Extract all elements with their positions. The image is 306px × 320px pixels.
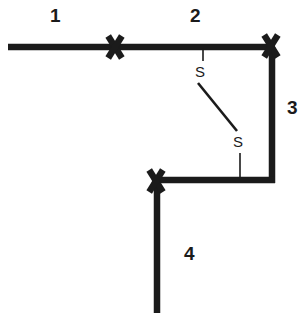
diagram-canvas: 1 2 3 4 S S xyxy=(0,0,306,320)
segment-label-4: 4 xyxy=(184,244,195,263)
switch-label-lower-s: S xyxy=(233,134,243,149)
segment-label-3: 3 xyxy=(287,98,298,117)
switch-label-upper-s: S xyxy=(195,64,205,79)
cross-marks-group xyxy=(108,35,278,192)
thick-lines-group xyxy=(8,47,275,313)
switch-blade xyxy=(198,83,237,131)
segment-label-2: 2 xyxy=(190,6,201,25)
segment-label-1: 1 xyxy=(50,6,61,25)
diagram-svg xyxy=(0,0,306,320)
